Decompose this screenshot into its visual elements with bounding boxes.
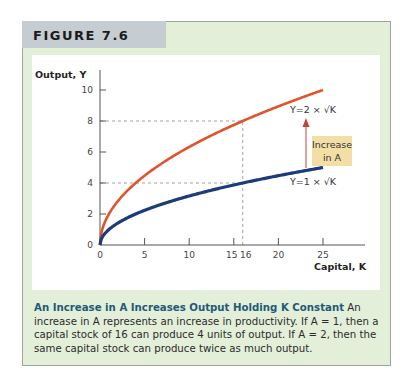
increase-label-line2: in A <box>323 152 342 163</box>
x-tick-label: 5 <box>142 250 148 260</box>
x-tick-label: 20 <box>273 250 285 260</box>
arrow-up-icon <box>303 118 310 127</box>
reference-lines <box>100 121 243 245</box>
y-tick-label: 10 <box>82 85 94 95</box>
x-tick-label: 15 <box>226 250 237 260</box>
x-tick-label: 10 <box>183 250 195 260</box>
y-axis-title: Output, Y <box>35 69 86 80</box>
y-tick-label: 8 <box>87 116 93 126</box>
y-tick-label: 0 <box>87 240 93 250</box>
caption-title: An Increase in A Increases Output Holdin… <box>34 302 344 313</box>
equation-a1: Y=1 × √K <box>289 176 337 187</box>
x-tick-label: 0 <box>97 250 103 260</box>
x-tick-label: 16 <box>240 250 252 260</box>
x-tick-label: 25 <box>317 250 328 260</box>
equation-a2: Y=2 × √K <box>289 104 337 115</box>
figure-caption: An Increase in A Increases Output Holdin… <box>34 301 384 355</box>
y-tick-label: 2 <box>87 209 93 219</box>
x-axis-title: Capital, K <box>314 261 367 272</box>
increase-label-line1: Increase <box>312 139 352 150</box>
y-tick-label: 6 <box>87 147 93 157</box>
y-tick-label: 4 <box>87 178 93 188</box>
